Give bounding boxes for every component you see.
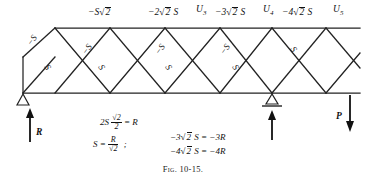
label-right-load: P (336, 112, 342, 122)
eq2-numerator: R (108, 136, 118, 144)
eq2-separator: ; (121, 139, 127, 149)
figure-caption: Fig. 10-15. (0, 164, 366, 174)
diagonal-d-6 (326, 28, 360, 68)
eq1-denominator: 2 (111, 122, 121, 131)
label-node-u3: U3 (196, 5, 206, 17)
left-reaction-arrow (26, 108, 34, 142)
eq2-fraction: R √2 (108, 136, 118, 153)
left-pin-support (17, 94, 29, 105)
label-top-chord-u4u5: −4√2 S (282, 7, 312, 18)
label-node-u4: U4 (263, 5, 273, 17)
label-top-chord-u2u3: −2√2 S (148, 7, 178, 18)
right-load-arrow (346, 95, 354, 132)
eq1-tail: = R (124, 117, 138, 127)
equation-line-2: S = R √2 ; (93, 136, 127, 153)
label-node-u5: U5 (333, 5, 343, 17)
label-top-chord-u3u4: −3√2 S (215, 7, 245, 18)
label-left-reaction: R (36, 128, 42, 138)
equation-line-4: −4√2 S = −4R (170, 146, 225, 156)
equation-line-1: 2S √2 2 = R (100, 114, 138, 131)
equation-line-3: −3√2 S = −3R (170, 132, 225, 142)
mid-roller-support (262, 94, 282, 106)
eq1-numerator: √2 (111, 114, 121, 122)
label-top-chord-u1u2: −S√2 (88, 7, 111, 18)
eq2-lead: S = (93, 139, 106, 149)
diagonal-a-7 (326, 53, 360, 93)
eq2-denominator: √2 (108, 144, 118, 153)
eq1-lead: 2S (100, 117, 109, 127)
mid-reaction-arrow (268, 110, 276, 140)
truss-diagram (0, 0, 366, 186)
eq1-fraction: √2 2 (111, 114, 121, 131)
